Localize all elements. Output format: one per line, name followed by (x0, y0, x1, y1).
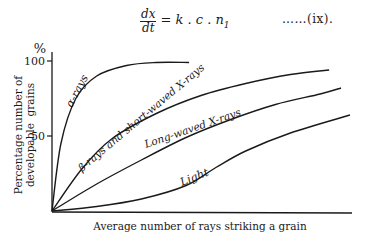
y-tick-label-100: 100 (24, 55, 45, 68)
curve-label-long-waved: Long-waved X-rays (142, 105, 243, 150)
curve-label-light: Light (177, 166, 211, 190)
chart: % 100 50 Percentage number of developabl… (0, 0, 376, 239)
y-unit: % (34, 41, 46, 56)
y-axis-label-line1: Percentage number of (12, 75, 24, 195)
y-axis-label-line2: developable grains (24, 83, 36, 187)
curves (52, 62, 350, 211)
x-axis (52, 212, 352, 213)
curve-beta-rays (52, 70, 329, 211)
curve-label-alpha: α-rays (63, 72, 91, 109)
x-axis-label: Average number of rays striking a grain (92, 220, 307, 232)
